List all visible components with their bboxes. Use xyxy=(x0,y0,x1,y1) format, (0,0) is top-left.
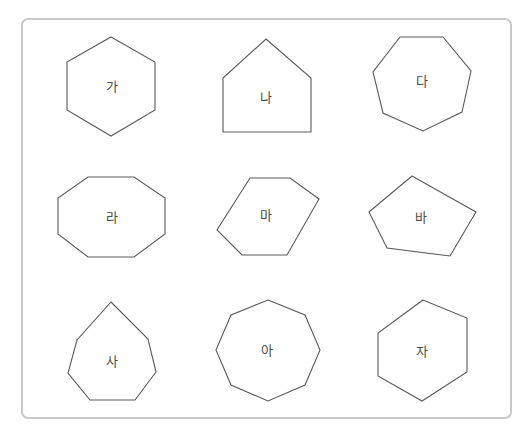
shapes-canvas: 가 나 다 라 마 바 사 아 자 xyxy=(0,0,531,435)
shape-ra: 라 xyxy=(58,177,165,257)
shape-label: 다 xyxy=(416,74,428,89)
shape-ba: 바 xyxy=(369,176,476,256)
shape-label: 가 xyxy=(106,79,118,94)
shape-label: 바 xyxy=(415,210,427,225)
shape-ga: 가 xyxy=(67,37,155,136)
shape-label: 마 xyxy=(260,208,272,223)
shape-sa: 사 xyxy=(68,302,156,400)
shape-label: 라 xyxy=(106,210,118,225)
shape-label: 사 xyxy=(106,354,118,369)
shape-a: 아 xyxy=(216,300,320,401)
shape-da: 다 xyxy=(373,37,471,131)
shape-na: 나 xyxy=(223,39,311,132)
shape-label: 아 xyxy=(261,343,273,358)
shape-ja: 자 xyxy=(378,300,467,401)
pentagon-shape xyxy=(223,39,311,132)
shape-ma: 마 xyxy=(217,178,319,255)
shape-label: 나 xyxy=(260,90,272,105)
heptagon-shape xyxy=(68,302,156,400)
shape-label: 자 xyxy=(416,344,428,359)
